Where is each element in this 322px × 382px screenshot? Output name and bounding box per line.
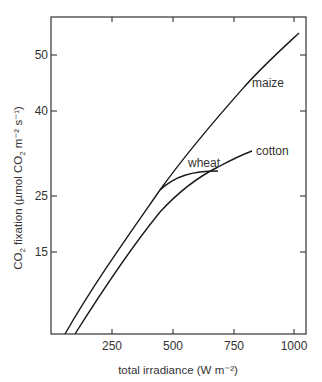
y-tick-label: 50 [35, 48, 49, 62]
y-label-end: m⁻² s⁻¹) [12, 106, 24, 151]
plot-frame [51, 17, 306, 334]
y-label-mid: fixation (µmol CO [12, 156, 24, 248]
y-axis-label: CO2 fixation (µmol CO2 m⁻² s⁻¹) [12, 106, 27, 270]
cotton-label: cotton [256, 144, 289, 158]
x-tick-label: 500 [163, 339, 183, 353]
x-tick-label: 250 [102, 339, 122, 353]
chart-canvas: 250 500 750 1000 50 40 25 15 total irrad… [0, 0, 322, 382]
cotton-line [75, 151, 252, 334]
x-tick-label: 1000 [281, 339, 308, 353]
y-tick-label: 40 [35, 104, 49, 118]
wheat-label: wheat [187, 156, 221, 170]
y-tick-label: 25 [35, 189, 49, 203]
y-label-prefix: CO [12, 253, 24, 270]
maize-label: maize [252, 76, 284, 90]
x-tick-label: 750 [224, 339, 244, 353]
wheat-line [160, 171, 218, 190]
y-tick-label: 15 [35, 245, 49, 259]
x-axis-label: total irradiance (W m⁻²) [118, 364, 238, 376]
